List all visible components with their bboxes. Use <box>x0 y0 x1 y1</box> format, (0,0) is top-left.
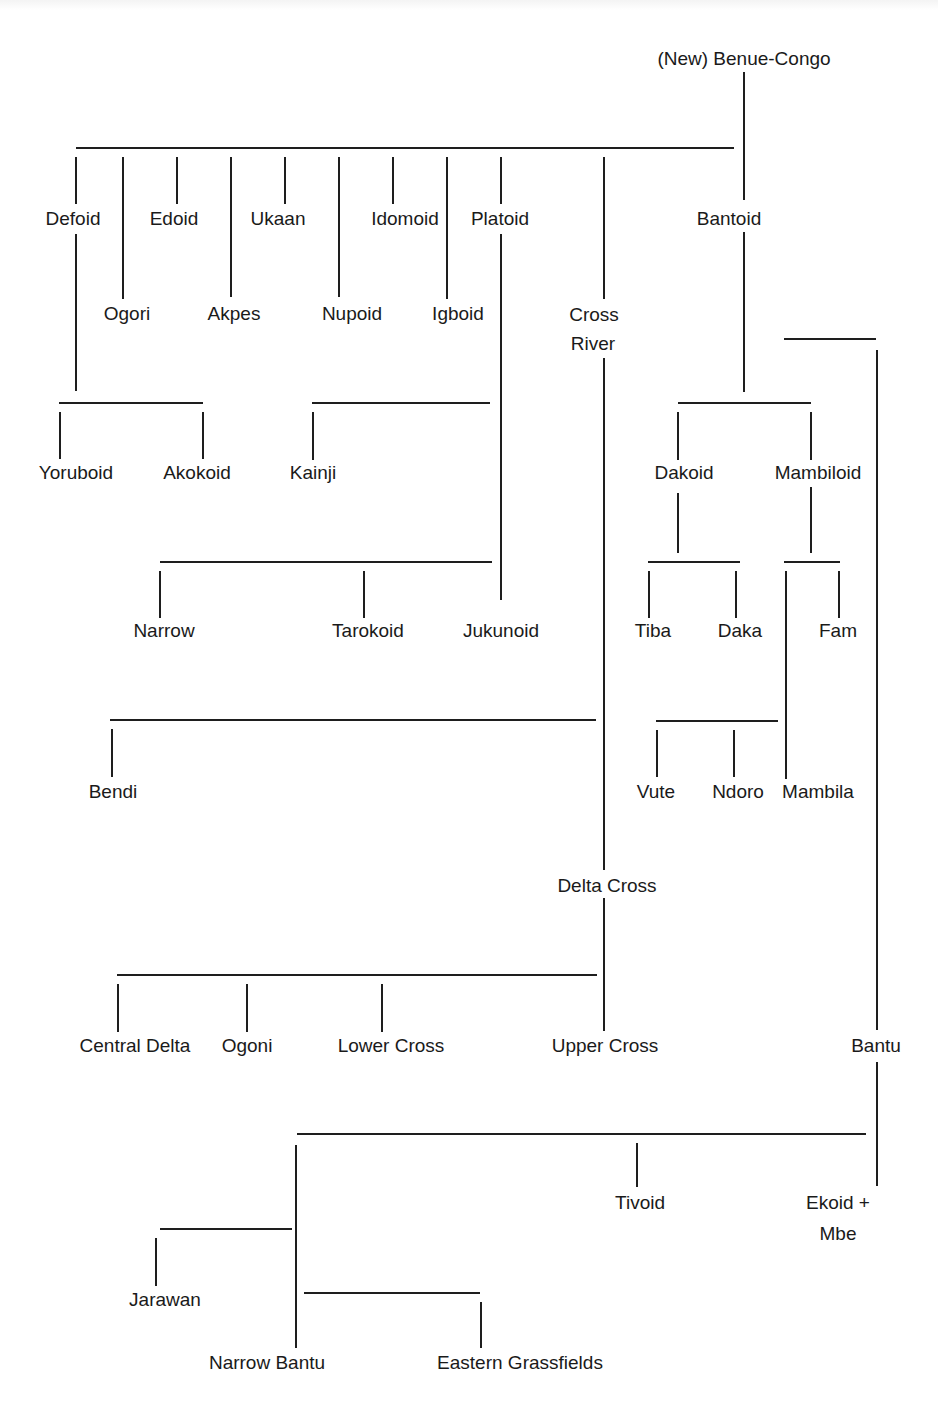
edge-jarawan <box>155 1238 157 1286</box>
edge-defoid-down <box>75 234 77 391</box>
edge-delta-cross-down <box>603 898 605 1031</box>
node-dakoid: Dakoid <box>654 458 713 488</box>
edge-edoid <box>176 157 178 204</box>
edge-igboid <box>446 157 448 299</box>
edge-mambila <box>785 571 787 779</box>
edge-platoid-down <box>500 234 502 600</box>
edge-narrow-bantu <box>295 1145 297 1348</box>
edge-bantu <box>876 350 878 1030</box>
node-tarokoid: Tarokoid <box>332 616 404 646</box>
node-cross-river-1: Cross <box>569 300 619 330</box>
edge-jarawan-bar <box>160 1228 292 1230</box>
node-jarawan: Jarawan <box>129 1285 201 1315</box>
scan-edge <box>0 0 938 10</box>
edge-bantu-bar <box>784 338 876 340</box>
node-ukaan: Ukaan <box>251 204 306 234</box>
node-kainji: Kainji <box>290 458 336 488</box>
edge-akpes <box>230 157 232 297</box>
node-tiba: Tiba <box>635 616 671 646</box>
edge-cross-river-down <box>603 358 605 870</box>
node-ogoni: Ogoni <box>222 1031 273 1061</box>
edge-bendi <box>111 729 113 777</box>
edge-bantu-down <box>876 1062 878 1186</box>
edge-root-down <box>743 72 745 200</box>
edge-dakoid <box>677 412 679 460</box>
edge-vute <box>656 730 658 777</box>
node-narrow: Narrow <box>133 616 194 646</box>
node-tivoid: Tivoid <box>615 1188 665 1218</box>
edge-ogori <box>122 157 124 299</box>
edge-cross-river <box>603 157 605 299</box>
edge-ogoni <box>246 984 248 1032</box>
edge-dakoid-bar <box>648 561 740 563</box>
node-mambila: Mambila <box>782 777 854 807</box>
edge-delta-bar <box>117 974 597 976</box>
node-daka: Daka <box>718 616 762 646</box>
edge-dakoid-down <box>677 493 679 553</box>
node-ekoid-2: Mbe <box>820 1219 857 1249</box>
node-lower-cross: Lower Cross <box>338 1031 445 1061</box>
node-vute: Vute <box>637 777 675 807</box>
node-root: (New) Benue-Congo <box>657 44 830 74</box>
node-ogori: Ogori <box>104 299 150 329</box>
edge-bantoid-down <box>743 232 745 392</box>
edge-platoid <box>500 157 502 204</box>
edge-idomoid <box>392 157 394 204</box>
edge-defoid-bar <box>59 402 203 404</box>
node-fam: Fam <box>819 616 857 646</box>
node-defoid: Defoid <box>46 204 101 234</box>
node-idomoid: Idomoid <box>371 204 439 234</box>
edge-bantu-sub-bar <box>297 1133 866 1135</box>
node-bantu: Bantu <box>851 1031 901 1061</box>
edge-ukaan <box>284 157 286 204</box>
node-delta-cross: Delta Cross <box>557 871 656 901</box>
node-igboid: Igboid <box>432 299 484 329</box>
edge-akokoid <box>202 412 204 459</box>
node-mambiloid: Mambiloid <box>775 458 862 488</box>
node-jukunoid: Jukunoid <box>463 616 539 646</box>
edge-bantoid-bar <box>678 402 811 404</box>
edge-narrow <box>159 571 161 618</box>
node-cross-river-2: River <box>571 329 615 359</box>
edge-bendi-bar <box>110 719 596 721</box>
edge-defoid <box>75 157 77 204</box>
edge-nupoid <box>338 157 340 297</box>
edge-lower-cross <box>381 984 383 1032</box>
node-eastern-grassfields: Eastern Grassfields <box>437 1348 603 1378</box>
node-akokoid: Akokoid <box>163 458 231 488</box>
node-ndoro: Ndoro <box>712 777 764 807</box>
node-upper-cross: Upper Cross <box>552 1031 659 1061</box>
edge-narrow-bar <box>160 561 492 563</box>
edge-kainji <box>312 412 314 460</box>
edge-root-bar <box>76 147 734 149</box>
node-platoid: Platoid <box>471 204 529 234</box>
edge-tarokoid <box>363 571 365 618</box>
node-nupoid: Nupoid <box>322 299 382 329</box>
node-ekoid-1: Ekoid + <box>806 1188 870 1218</box>
edge-daka <box>735 571 737 618</box>
node-central-delta: Central Delta <box>80 1031 191 1061</box>
node-edoid: Edoid <box>150 204 199 234</box>
edge-kainji-bar <box>312 402 490 404</box>
edge-tiba <box>648 571 650 618</box>
edge-mambiloid-bar <box>784 561 840 563</box>
edge-ndoro <box>733 730 735 777</box>
edge-eastern-grassfields <box>480 1302 482 1348</box>
edge-mambila-bar <box>656 720 778 722</box>
node-yoruboid: Yoruboid <box>39 458 113 488</box>
edge-grassfields-bar <box>304 1292 480 1294</box>
edge-central-delta <box>117 984 119 1032</box>
node-bantoid: Bantoid <box>697 204 761 234</box>
edge-yoruboid <box>59 412 61 459</box>
edge-mambiloid <box>810 412 812 460</box>
node-narrow-bantu: Narrow Bantu <box>209 1348 325 1378</box>
node-akpes: Akpes <box>208 299 261 329</box>
edge-tivoid <box>636 1143 638 1187</box>
node-bendi: Bendi <box>89 777 138 807</box>
edge-mambiloid-down <box>810 487 812 553</box>
edge-fam <box>838 571 840 618</box>
